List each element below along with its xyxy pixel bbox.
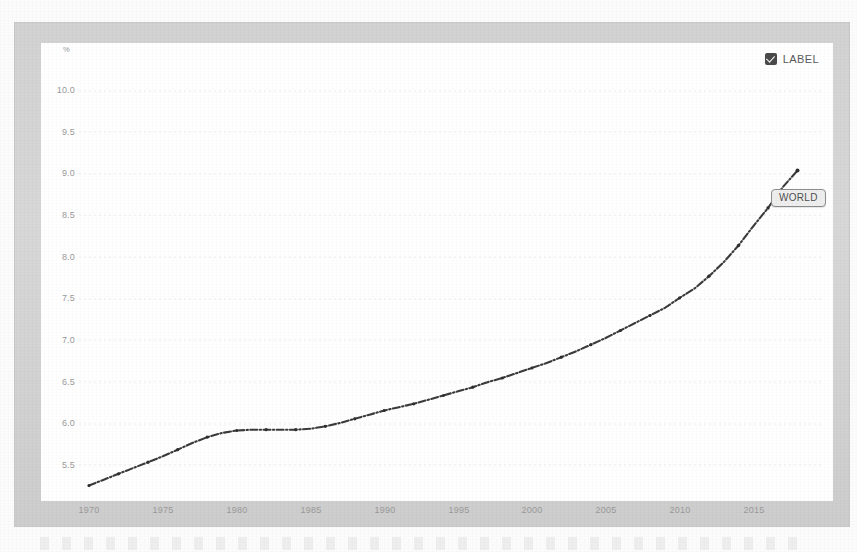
x-tick-label: 1975 xyxy=(143,505,183,515)
chart-panel: % xyxy=(41,43,833,501)
x-tick-label: 2015 xyxy=(734,505,774,515)
y-tick-label: 8.0 xyxy=(45,252,75,262)
plot-area: 10.0 9.5 9.0 8.5 8.0 7.5 7.0 6.5 6.0 5.5… xyxy=(41,43,833,501)
legend-label: LABEL xyxy=(783,53,819,65)
series-callout-world[interactable]: WORLD xyxy=(771,189,826,207)
y-tick-label: 9.0 xyxy=(45,168,75,178)
chart-window-frame: % xyxy=(14,22,850,527)
x-tick-label: 2005 xyxy=(586,505,626,515)
y-tick-label: 10.0 xyxy=(45,85,75,95)
y-tick-label: 6.5 xyxy=(45,377,75,387)
y-tick-label: 8.5 xyxy=(45,210,75,220)
chart-svg xyxy=(41,43,833,501)
gridlines-horizontal xyxy=(79,91,821,501)
y-tick-label: 5.5 xyxy=(45,460,75,470)
y-tick-label: 9.5 xyxy=(45,127,75,137)
x-tick-label: 1970 xyxy=(69,505,109,515)
legend-toggle[interactable]: LABEL xyxy=(765,53,819,65)
series-world-line xyxy=(89,171,798,486)
y-tick-label: 7.5 xyxy=(45,293,75,303)
checkmark-icon[interactable] xyxy=(765,53,777,65)
x-tick-label: 1985 xyxy=(291,505,331,515)
x-tick-label: 2010 xyxy=(660,505,700,515)
series-world-markers xyxy=(87,169,799,488)
x-tick-label: 1995 xyxy=(439,505,479,515)
x-tick-label: 1980 xyxy=(217,505,257,515)
x-tick-label: 1990 xyxy=(365,505,405,515)
x-tick-label: 2000 xyxy=(512,505,552,515)
screenshot-root: % xyxy=(0,0,857,552)
y-tick-label: 7.0 xyxy=(45,335,75,345)
page-bottom-smudge xyxy=(40,537,810,550)
y-tick-label: 6.0 xyxy=(45,418,75,428)
